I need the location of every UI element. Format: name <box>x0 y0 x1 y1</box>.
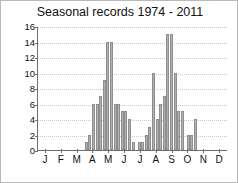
bar <box>117 104 120 151</box>
x-tick-label: J <box>132 155 148 165</box>
bar <box>103 80 106 150</box>
y-tick-label: 2 <box>5 131 35 141</box>
y-tick-label: 0 <box>5 146 35 156</box>
bar <box>121 111 124 150</box>
x-tick-mark <box>61 149 62 153</box>
x-tick-mark <box>124 149 125 153</box>
bar <box>132 142 135 150</box>
y-tick-mark <box>35 151 38 152</box>
y-tick-label: 12 <box>5 53 35 63</box>
bar <box>124 111 127 150</box>
y-axis-labels: 0246810121416 <box>1 27 35 151</box>
x-tick-mark <box>203 149 204 153</box>
bar <box>85 142 88 150</box>
bar <box>187 135 190 151</box>
y-tick-label: 6 <box>5 100 35 110</box>
x-tick-label: J <box>116 155 132 165</box>
x-tick-label: M <box>100 155 116 165</box>
x-tick-label: A <box>84 155 100 165</box>
bar <box>170 34 173 150</box>
bar <box>128 119 131 150</box>
bar <box>194 119 197 150</box>
bar <box>159 104 162 151</box>
x-tick-label: D <box>211 155 227 165</box>
x-tick-label: S <box>164 155 180 165</box>
x-tick-label: N <box>195 155 211 165</box>
bar <box>181 111 184 150</box>
bar <box>92 104 95 151</box>
plot-area <box>37 27 227 151</box>
y-tick-label: 14 <box>5 38 35 48</box>
bar <box>106 42 109 151</box>
bar <box>99 96 102 150</box>
y-tick-label: 16 <box>5 22 35 32</box>
bar <box>96 104 99 151</box>
x-tick-mark <box>172 149 173 153</box>
x-tick-label: M <box>69 155 85 165</box>
x-tick-label: J <box>37 155 53 165</box>
bar <box>114 104 117 151</box>
bar <box>166 34 169 150</box>
chart-frame: Seasonal records 1974 - 2011 02468101214… <box>0 0 238 183</box>
x-tick-mark <box>156 149 157 153</box>
x-tick-mark <box>92 149 93 153</box>
bar <box>177 111 180 150</box>
bar <box>88 135 91 151</box>
bar <box>156 119 159 150</box>
x-tick-mark <box>45 149 46 153</box>
x-tick-label: O <box>179 155 195 165</box>
x-tick-mark <box>77 149 78 153</box>
x-tick-mark <box>187 149 188 153</box>
bar <box>148 127 151 150</box>
y-tick-label: 4 <box>5 115 35 125</box>
bar <box>145 135 148 151</box>
x-tick-label: A <box>148 155 164 165</box>
y-tick-label: 10 <box>5 69 35 79</box>
chart-title: Seasonal records 1974 - 2011 <box>1 5 238 19</box>
x-tick-mark <box>108 149 109 153</box>
x-axis-labels: JFMAMJJASOND <box>37 153 227 171</box>
bar <box>110 42 113 151</box>
x-tick-mark <box>140 149 141 153</box>
bar <box>163 96 166 150</box>
bar-series <box>38 27 227 150</box>
bar <box>141 142 144 150</box>
y-tick-label: 8 <box>5 84 35 94</box>
bar <box>190 135 193 151</box>
bar <box>152 73 155 151</box>
bar <box>174 73 177 151</box>
x-tick-label: F <box>53 155 69 165</box>
x-tick-mark <box>219 149 220 153</box>
